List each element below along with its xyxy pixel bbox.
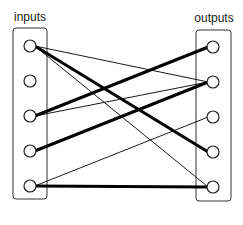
input-nodes-group [24,40,36,192]
edge-in3-out2 [35,82,208,116]
edge-in3-out1 [35,47,208,116]
output-node-out1 [207,41,219,53]
edges-group [35,46,208,187]
input-node-in1 [24,40,36,52]
input-node-in3 [24,110,36,122]
edge-in5-out5 [35,186,208,187]
inputs-label: inputs [14,10,46,24]
edge-in5-out3 [35,117,208,186]
output-node-out3 [207,111,219,123]
output-node-out5 [207,181,219,193]
network-diagram: inputs outputs [0,0,243,225]
edge-in4-out2 [35,82,208,151]
edge-in1-out2 [35,46,208,82]
input-node-in4 [24,145,36,157]
input-node-in2 [24,75,36,87]
outputs-label: outputs [194,11,233,25]
output-node-out2 [207,76,219,88]
output-node-out4 [207,146,219,158]
output-nodes-group [207,41,219,193]
input-node-in5 [24,180,36,192]
